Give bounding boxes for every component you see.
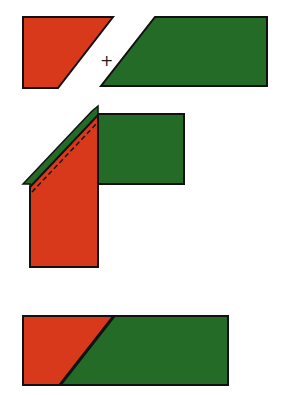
step-2-overlapped-pieces <box>23 106 184 267</box>
step-3-joined-strip <box>23 316 228 385</box>
green-piece-horizontal <box>98 114 184 184</box>
seam-diagram: + <box>0 0 287 395</box>
green-piece <box>101 17 267 86</box>
plus-operator: + <box>100 51 113 70</box>
red-piece-vertical <box>30 115 98 267</box>
step-1-separate-pieces: + <box>23 17 267 88</box>
